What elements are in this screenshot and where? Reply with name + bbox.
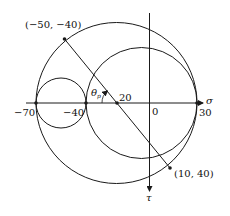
point-p2 xyxy=(168,166,172,170)
point-30 xyxy=(195,101,199,105)
label-minus-70: −70 xyxy=(14,107,35,118)
label-p1: (−50, −40) xyxy=(25,19,81,30)
mohr-circle-diagram: (−50, −40) (10, 40) −70 −40 20 30 0 σ τ … xyxy=(0,0,230,216)
label-sigma: σ xyxy=(206,95,214,106)
angle-arc xyxy=(102,91,108,103)
point-p1 xyxy=(63,37,67,41)
label-30: 30 xyxy=(199,107,212,118)
label-minus-40: −40 xyxy=(63,107,84,118)
point-minus-40 xyxy=(84,101,88,105)
label-center: 20 xyxy=(119,92,132,103)
label-tau: τ xyxy=(146,192,152,203)
label-origin: 0 xyxy=(152,106,158,117)
label-theta-p: θp xyxy=(91,87,101,100)
label-p2: (10, 40) xyxy=(174,168,214,179)
point-minus-70 xyxy=(34,101,38,105)
